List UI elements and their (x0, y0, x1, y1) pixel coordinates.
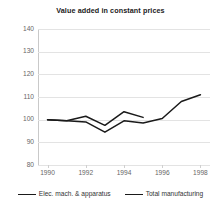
y-tick-label-120: 120 (8, 71, 34, 78)
series-lines (38, 29, 210, 165)
series-line-0 (48, 112, 144, 126)
x-tick-label-1990: 1990 (33, 170, 63, 177)
legend-item-0[interactable]: Elec. mach. & apparatus (18, 191, 111, 198)
x-tick-label-1992: 1992 (71, 170, 101, 177)
y-tick-label-100: 100 (8, 116, 34, 123)
chart-title: Value added in constant prices (0, 6, 221, 15)
x-tick-label-1994: 1994 (109, 170, 139, 177)
x-tick-mark-1992 (86, 165, 87, 168)
x-tick-mark-1998 (200, 165, 201, 168)
chart-legend: Elec. mach. & apparatusTotal manufacturi… (0, 191, 221, 198)
y-tick-label-80: 80 (8, 162, 34, 169)
legend-line-swatch-icon (18, 194, 36, 195)
x-tick-mark-1994 (124, 165, 125, 168)
x-tick-mark-1996 (162, 165, 163, 168)
plot-area (38, 29, 210, 165)
x-tick-mark-1990 (48, 165, 49, 168)
y-tick-label-110: 110 (8, 94, 34, 101)
y-tick-label-130: 130 (8, 48, 34, 55)
legend-item-1[interactable]: Total manufacturing (125, 191, 204, 198)
legend-label: Elec. mach. & apparatus (39, 191, 111, 198)
legend-line-swatch-icon (125, 194, 143, 195)
y-tick-label-90: 90 (8, 139, 34, 146)
series-line-1 (48, 95, 201, 132)
y-tick-label-140: 140 (8, 26, 34, 33)
x-tick-label-1996: 1996 (147, 170, 177, 177)
chart-container: Value added in constant prices 809010011… (0, 0, 221, 215)
legend-label: Total manufacturing (146, 191, 204, 198)
x-tick-label-1998: 1998 (185, 170, 215, 177)
